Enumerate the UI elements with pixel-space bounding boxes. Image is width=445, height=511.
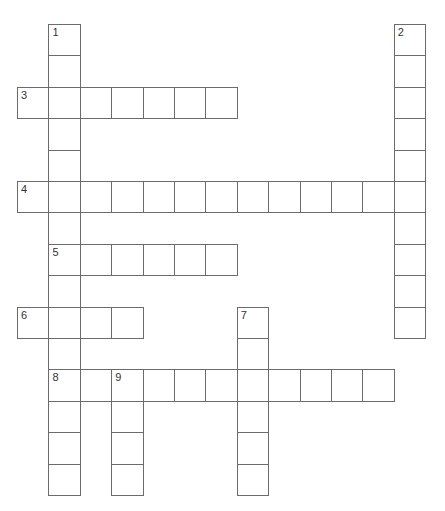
crossword-cell[interactable] <box>394 150 426 182</box>
crossword-cell[interactable] <box>80 87 112 119</box>
crossword-cell[interactable] <box>174 244 206 276</box>
clue-number: 2 <box>398 27 404 38</box>
clue-number: 6 <box>21 310 27 321</box>
crossword-cell[interactable]: 3 <box>17 87 49 119</box>
clue-number: 8 <box>52 372 58 383</box>
crossword-cell[interactable] <box>111 432 143 464</box>
crossword-cell[interactable] <box>205 244 237 276</box>
crossword-cell[interactable] <box>394 181 426 213</box>
crossword-cell[interactable] <box>331 181 363 213</box>
crossword-cell[interactable] <box>111 307 143 339</box>
crossword-cell[interactable] <box>268 181 300 213</box>
crossword-cell[interactable]: 1 <box>48 24 80 56</box>
crossword-cell[interactable] <box>143 244 175 276</box>
crossword-cell[interactable] <box>394 55 426 87</box>
crossword-cell[interactable]: 6 <box>17 307 49 339</box>
crossword-cell[interactable] <box>237 401 269 433</box>
crossword-cell[interactable] <box>48 150 80 182</box>
crossword-cell[interactable]: 5 <box>48 244 80 276</box>
crossword-cell[interactable] <box>237 181 269 213</box>
crossword-cell[interactable] <box>80 369 112 401</box>
crossword-cell[interactable]: 7 <box>237 307 269 339</box>
crossword-cell[interactable] <box>111 464 143 496</box>
crossword-cell[interactable] <box>362 181 394 213</box>
crossword-cell[interactable] <box>143 181 175 213</box>
crossword-cell[interactable] <box>394 275 426 307</box>
crossword-cell[interactable]: 8 <box>48 369 80 401</box>
clue-number: 9 <box>115 372 121 383</box>
crossword-cell[interactable]: 9 <box>111 369 143 401</box>
crossword-cell[interactable] <box>394 87 426 119</box>
crossword-cell[interactable] <box>237 369 269 401</box>
clue-number: 7 <box>241 310 247 321</box>
crossword-cell[interactable] <box>48 307 80 339</box>
crossword-cell[interactable] <box>143 369 175 401</box>
crossword-cell[interactable] <box>80 181 112 213</box>
crossword-cell[interactable] <box>111 244 143 276</box>
crossword-cell[interactable] <box>300 369 332 401</box>
crossword-cell[interactable] <box>237 464 269 496</box>
crossword-cell[interactable] <box>48 338 80 370</box>
crossword-cell[interactable]: 2 <box>394 24 426 56</box>
crossword-cell[interactable] <box>48 55 80 87</box>
crossword-cell[interactable] <box>394 244 426 276</box>
crossword-cell[interactable] <box>48 464 80 496</box>
crossword-cell[interactable] <box>48 401 80 433</box>
crossword-cell[interactable] <box>394 118 426 150</box>
crossword-cell[interactable] <box>48 275 80 307</box>
crossword-cell[interactable] <box>237 432 269 464</box>
crossword-cell[interactable] <box>300 181 332 213</box>
crossword-cell[interactable] <box>237 338 269 370</box>
crossword-cell[interactable] <box>205 87 237 119</box>
clue-number: 3 <box>21 90 27 101</box>
crossword-cell[interactable] <box>362 369 394 401</box>
crossword-grid: 158234679 <box>0 0 445 511</box>
crossword-cell[interactable] <box>48 212 80 244</box>
crossword-cell[interactable] <box>111 87 143 119</box>
crossword-cell[interactable] <box>80 244 112 276</box>
crossword-cell[interactable] <box>331 369 363 401</box>
crossword-cell[interactable] <box>48 87 80 119</box>
crossword-cell[interactable] <box>111 181 143 213</box>
crossword-cell[interactable] <box>80 307 112 339</box>
crossword-cell[interactable] <box>205 369 237 401</box>
crossword-cell[interactable] <box>48 432 80 464</box>
crossword-cell[interactable] <box>143 87 175 119</box>
crossword-cell[interactable] <box>48 181 80 213</box>
crossword-cell[interactable] <box>268 369 300 401</box>
crossword-cell[interactable] <box>174 369 206 401</box>
crossword-cell[interactable] <box>394 212 426 244</box>
crossword-cell[interactable] <box>174 181 206 213</box>
crossword-cell[interactable]: 4 <box>17 181 49 213</box>
crossword-cell[interactable] <box>48 118 80 150</box>
crossword-cell[interactable] <box>111 401 143 433</box>
clue-number: 4 <box>21 184 27 195</box>
crossword-cell[interactable] <box>174 87 206 119</box>
crossword-cell[interactable] <box>394 307 426 339</box>
clue-number: 1 <box>52 27 58 38</box>
crossword-cell[interactable] <box>205 181 237 213</box>
clue-number: 5 <box>52 247 58 258</box>
